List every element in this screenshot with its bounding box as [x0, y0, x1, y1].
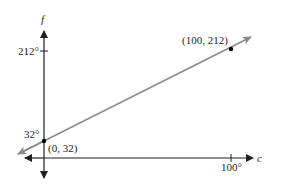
point-100-212 — [229, 47, 233, 51]
graph-canvas: f c 212° 32° 100° (0, 32) (100, 212) — [0, 0, 282, 194]
point-label-100-212: (100, 212) — [182, 34, 228, 47]
horizontal-axis-label: c — [257, 152, 262, 164]
tick-label-212: 212° — [18, 45, 39, 57]
vertical-axis-label: f — [41, 13, 46, 25]
vertical-axis — [40, 31, 48, 178]
point-label-0-32: (0, 32) — [48, 142, 78, 155]
tick-label-32: 32° — [24, 128, 39, 140]
point-0-32 — [42, 139, 46, 143]
conversion-line — [22, 37, 251, 152]
tick-label-100: 100° — [221, 161, 242, 173]
horizontal-axis — [25, 154, 253, 162]
temperature-conversion-graph: f c 212° 32° 100° (0, 32) (100, 212) — [0, 0, 282, 194]
